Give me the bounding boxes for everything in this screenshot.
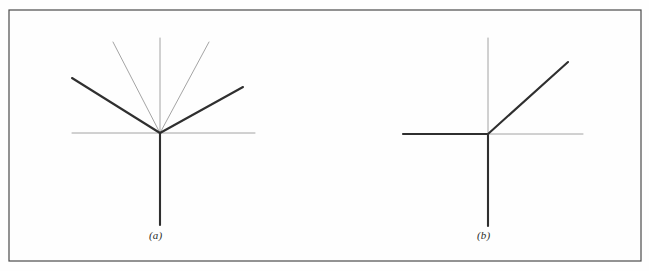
figure-frame xyxy=(9,10,641,261)
figure-canvas xyxy=(0,0,649,271)
figure-page: (a) (b) xyxy=(0,0,649,271)
panel-a xyxy=(72,38,255,225)
panel-a-caption: (a) xyxy=(149,229,162,241)
thick-ray-upper-left xyxy=(72,78,160,133)
panel-b-caption: (b) xyxy=(477,229,490,241)
thick-ray-upper-right xyxy=(488,62,568,134)
panel-b xyxy=(403,38,583,226)
